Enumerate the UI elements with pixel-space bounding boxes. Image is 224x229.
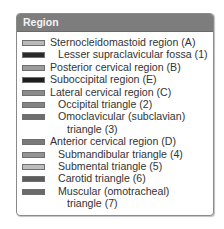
legend-item-label: Muscular (omotracheal) triangle (7) bbox=[58, 185, 169, 210]
color-swatch-icon bbox=[22, 90, 45, 96]
legend-item-submandibular-triangle: Submandibular triangle (4) bbox=[17, 148, 213, 160]
legend-item-label-line2: triangle (7) bbox=[58, 197, 169, 209]
color-swatch-icon bbox=[22, 164, 45, 170]
color-swatch-icon bbox=[22, 40, 45, 46]
legend-item-label: Carotid triangle (6) bbox=[58, 172, 146, 184]
legend-item-label: Submandibular triangle (4) bbox=[58, 148, 183, 160]
legend-item-label-line1: Omoclavicular (subclavian) bbox=[58, 110, 185, 122]
color-swatch-icon bbox=[22, 114, 45, 120]
legend-item-label: Anterior cervical region (D) bbox=[50, 135, 176, 147]
legend-item-label: Lesser supraclavicular fossa (1) bbox=[58, 48, 208, 60]
legend-item-label-line2: triangle (3) bbox=[58, 123, 185, 135]
color-swatch-icon bbox=[22, 102, 45, 108]
color-swatch-icon bbox=[22, 189, 45, 195]
legend-item-lesser-supraclavicular-fossa: Lesser supraclavicular fossa (1) bbox=[17, 48, 213, 60]
legend-item-label: Lateral cervical region (C) bbox=[50, 86, 171, 98]
legend-title: Region bbox=[17, 14, 213, 32]
legend-item-muscular-triangle: Muscular (omotracheal) triangle (7) bbox=[17, 185, 213, 210]
color-swatch-icon bbox=[22, 52, 45, 58]
legend-item-lateral-cervical-region: Lateral cervical region (C) bbox=[17, 86, 213, 98]
legend-item-label: Submental triangle (5) bbox=[58, 160, 162, 172]
legend-items: Sternocleidomastoid region (A) Lesser su… bbox=[17, 32, 213, 210]
color-swatch-icon bbox=[22, 139, 45, 145]
region-legend: Region Sternocleidomastoid region (A) Le… bbox=[16, 13, 214, 216]
legend-item-label: Posterior cervical region (B) bbox=[50, 61, 181, 73]
legend-item-submental-triangle: Submental triangle (5) bbox=[17, 160, 213, 172]
color-swatch-icon bbox=[22, 152, 45, 158]
legend-item-label: Suboccipital region (E) bbox=[50, 73, 157, 85]
legend-item-omoclavicular-triangle: Omoclavicular (subclavian) triangle (3) bbox=[17, 110, 213, 135]
color-swatch-icon bbox=[22, 77, 45, 83]
legend-item-label: Omoclavicular (subclavian) triangle (3) bbox=[58, 110, 185, 135]
legend-item-label: Occipital triangle (2) bbox=[58, 98, 152, 110]
legend-item-label-line1: Muscular (omotracheal) bbox=[58, 185, 169, 197]
color-swatch-icon bbox=[22, 65, 45, 71]
legend-item-posterior-cervical-region: Posterior cervical region (B) bbox=[17, 61, 213, 73]
legend-item-carotid-triangle: Carotid triangle (6) bbox=[17, 172, 213, 184]
legend-item-label: Sternocleidomastoid region (A) bbox=[50, 36, 195, 48]
legend-item-suboccipital-region: Suboccipital region (E) bbox=[17, 73, 213, 85]
legend-item-occipital-triangle: Occipital triangle (2) bbox=[17, 98, 213, 110]
color-swatch-icon bbox=[22, 176, 45, 182]
legend-item-sternocleidomastoid-region: Sternocleidomastoid region (A) bbox=[17, 36, 213, 48]
legend-item-anterior-cervical-region: Anterior cervical region (D) bbox=[17, 135, 213, 147]
